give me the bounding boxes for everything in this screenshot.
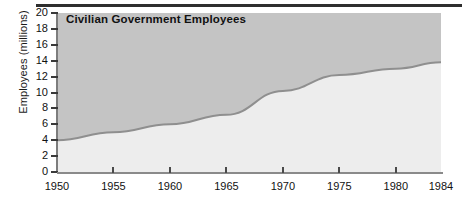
- y-axis-tick: [51, 123, 58, 125]
- y-axis-tick: [51, 139, 58, 141]
- top-rule-divider: [36, 4, 462, 7]
- x-axis-tick-label: 1970: [263, 181, 303, 192]
- y-axis-tick-label: 6: [26, 118, 48, 129]
- x-axis-tick-label: 1950: [37, 181, 77, 192]
- y-axis-tick: [51, 92, 58, 94]
- area-chart-svg: [57, 13, 441, 172]
- y-axis-tick: [51, 60, 58, 62]
- y-axis-tick-label: 10: [26, 87, 48, 98]
- y-axis-tick: [51, 107, 58, 109]
- x-axis-tick-label: 1984: [421, 181, 461, 192]
- y-axis-tick: [51, 155, 58, 157]
- y-axis-tick: [51, 12, 58, 14]
- x-axis-spine: [57, 172, 443, 174]
- y-axis-tick: [51, 76, 58, 78]
- y-axis-tick-label: 0: [26, 166, 48, 177]
- x-axis: 19501955196019651970197519801984: [57, 172, 443, 178]
- x-axis-tick: [169, 167, 171, 173]
- x-axis-tick-label: 1960: [150, 181, 190, 192]
- y-axis-tick: [51, 44, 58, 46]
- y-axis-tick-label: 20: [26, 7, 48, 18]
- y-axis-tick-label: 4: [26, 134, 48, 145]
- x-axis-tick: [395, 167, 397, 173]
- y-axis-tick-label: 14: [26, 55, 48, 66]
- chart-title: Civilian Government Employees: [66, 13, 246, 25]
- x-axis-tick: [338, 167, 340, 173]
- y-axis-title: Employees (millions): [17, 0, 29, 137]
- x-axis-tick-label: 1975: [319, 181, 359, 192]
- x-axis-tick-label: 1955: [93, 181, 133, 192]
- chart-figure: Employees (millions) 02468101214161820 1…: [0, 0, 462, 202]
- y-axis-tick-label: 16: [26, 39, 48, 50]
- y-axis-tick-label: 18: [26, 23, 48, 34]
- y-axis-tick-label: 12: [26, 71, 48, 82]
- x-axis-tick: [112, 167, 114, 173]
- x-axis-tick-label: 1965: [206, 181, 246, 192]
- y-axis-tick: [51, 28, 58, 30]
- y-axis: 02468101214161820: [53, 13, 58, 173]
- y-axis-tick-label: 2: [26, 150, 48, 161]
- x-axis-tick-label: 1980: [376, 181, 416, 192]
- x-axis-tick: [225, 167, 227, 173]
- y-axis-tick-label: 8: [26, 102, 48, 113]
- x-axis-tick: [282, 167, 284, 173]
- plot-area: [57, 13, 441, 172]
